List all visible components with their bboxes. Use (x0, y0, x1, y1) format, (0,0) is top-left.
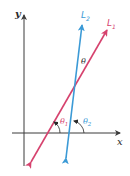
line-L1-label: L1 (107, 18, 116, 30)
angle-theta-label: θ (81, 57, 86, 66)
angle-theta1-label: θ1 (60, 117, 68, 127)
angle-theta2-label: θ2 (83, 117, 92, 127)
angle-diagram: y x L2 L1 θ θ1 θ2 (0, 0, 130, 176)
x-axis-label: x (117, 136, 123, 147)
line-L2 (66, 25, 82, 158)
line-L2-label: L2 (81, 10, 90, 22)
line-L1 (31, 30, 107, 162)
y-axis-label: y (14, 8, 22, 19)
